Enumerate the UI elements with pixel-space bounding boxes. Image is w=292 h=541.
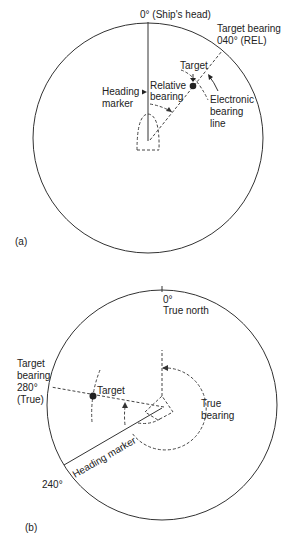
ebl-label-2: bearing [210,106,243,117]
radar-ring-b [47,290,277,520]
north-degree-label: 0° [163,294,173,305]
heading-degree-label: 240° [42,479,63,490]
ebl-arrow-icon-a [208,74,213,80]
target-bearing-label-a1: Target bearing [217,23,281,34]
panel-a-label: (a) [15,236,27,247]
relative-arc-b [125,407,126,425]
panel-a: 0° (Ship's head) Target bearing 040° (RE… [15,9,281,253]
target-bearing-label-b3: 280° [17,382,38,393]
panel-b-label: (b) [25,522,37,533]
ship-outline-b [145,396,173,420]
true-north-label: True north [163,305,209,316]
target-dot-a [190,83,197,90]
radar-bearing-diagram: 0° (Ship's head) Target bearing 040° (RE… [0,0,292,541]
relative-bearing-label-2: bearing [150,91,183,102]
target-bearing-label-a2: 040° (REL) [217,35,267,46]
true-bearing-arc-b [132,368,206,450]
true-bearing-label-2: bearing [201,410,234,421]
heading-marker-arrow-icon-a [142,90,147,95]
heading-marker-label-a2: marker [102,98,134,109]
target-label-b: Target [97,385,125,396]
target-bearing-label-b2: bearing [17,370,50,381]
ships-head-label: 0° (Ship's head) [140,9,211,20]
true-bearing-label-1: True [201,398,222,409]
target-label-a: Target [180,60,208,71]
target-bearing-label-b1: Target [17,358,45,369]
target-bearing-label-b4: (True) [17,394,44,405]
ebl-label-1: Electronic [210,94,254,105]
ebl-label-3: line [210,118,226,129]
relative-bearing-label-1: Relative [150,80,187,91]
panel-b: 0° True north Target bearing 280° (True)… [17,286,277,533]
target-dot-b [90,393,97,400]
heading-marker-label-a1: Heading [102,86,139,97]
true-bearing-arrow-icon [162,365,168,371]
relative-arrow-icon-b [122,402,128,408]
